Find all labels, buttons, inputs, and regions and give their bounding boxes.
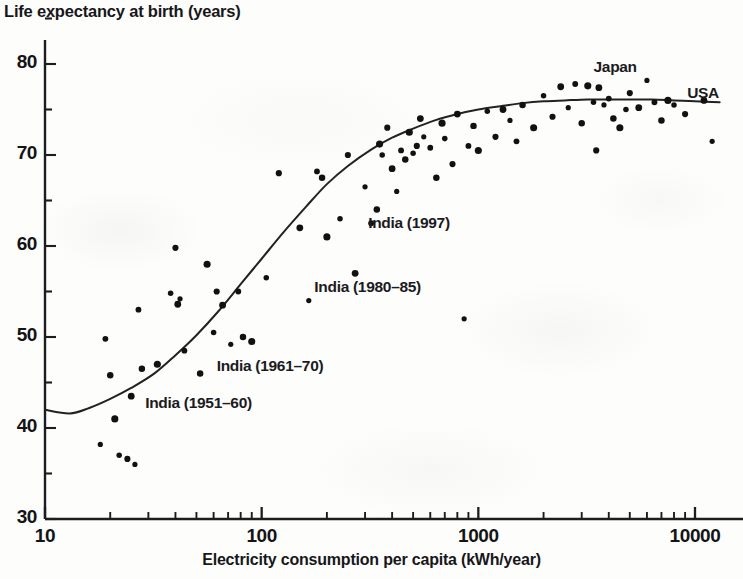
data-point [433, 175, 439, 181]
data-point [492, 134, 498, 140]
annotation-japan: Japan [593, 58, 636, 76]
data-point [389, 165, 396, 172]
data-point [710, 139, 715, 144]
data-point [204, 261, 211, 268]
data-point [319, 175, 325, 181]
y-tick-label: 80 [0, 51, 37, 73]
y-tick-label: 50 [0, 324, 37, 346]
data-point [214, 288, 220, 294]
data-point [98, 442, 103, 447]
data-point [658, 117, 664, 123]
data-point [177, 296, 182, 301]
data-point [384, 125, 390, 131]
data-point [132, 462, 137, 467]
annotation-india-1980-85: India (1980–85) [314, 278, 421, 296]
data-point [557, 83, 564, 90]
annotation-india-1961-70: India (1961–70) [217, 357, 324, 375]
data-point [337, 216, 343, 222]
data-point [379, 152, 385, 158]
data-point [345, 152, 351, 158]
data-point [402, 156, 408, 162]
data-point [111, 415, 118, 422]
data-point [102, 336, 108, 342]
data-point [219, 302, 226, 309]
data-point [606, 96, 612, 102]
data-point [139, 366, 145, 372]
x-axis-title: Electricity consumption per capita (kWh/… [0, 551, 743, 569]
data-point [168, 291, 174, 297]
data-point [466, 143, 472, 149]
y-tick-label: 60 [0, 233, 37, 255]
data-point [519, 102, 525, 108]
data-point [593, 147, 599, 153]
data-point [591, 99, 597, 105]
data-point [616, 124, 623, 131]
x-tick-label: 10000 [635, 525, 743, 547]
data-point [572, 81, 578, 87]
data-point [438, 120, 445, 127]
data-point [248, 338, 255, 345]
data-point [470, 123, 476, 129]
data-point [671, 102, 677, 108]
data-point [454, 111, 461, 118]
data-point [414, 143, 420, 149]
data-point [296, 224, 303, 231]
data-point [635, 104, 642, 111]
data-point [174, 301, 181, 308]
data-point [500, 106, 507, 113]
data-point [449, 161, 455, 167]
data-point [623, 107, 629, 113]
data-point [595, 84, 602, 91]
axes-group [45, 19, 743, 520]
data-point [406, 129, 413, 136]
chart-figure: Life expectancy at birth (years) 3040506… [0, 0, 743, 579]
data-point [682, 111, 688, 117]
data-point [362, 184, 367, 189]
data-point [181, 348, 187, 354]
y-tick-label: 70 [0, 142, 37, 164]
x-tick-label: 1000 [418, 525, 538, 547]
data-point [507, 118, 512, 123]
data-point [352, 270, 359, 277]
data-point [541, 93, 547, 99]
data-point [376, 141, 383, 148]
data-point [128, 393, 135, 400]
data-point [240, 334, 246, 340]
data-point [394, 189, 399, 194]
data-point [124, 456, 130, 462]
data-point [374, 206, 380, 212]
data-point [410, 150, 416, 156]
data-point [197, 370, 203, 376]
data-point [211, 330, 217, 336]
data-point [235, 289, 241, 295]
data-point [417, 115, 424, 122]
data-point [627, 90, 633, 96]
data-point [514, 138, 520, 144]
data-point [566, 105, 571, 110]
x-tick-label: 100 [202, 525, 322, 547]
y-tick-label: 40 [0, 415, 37, 437]
data-point [644, 78, 649, 83]
data-point [601, 102, 606, 107]
data-point [530, 124, 537, 131]
data-point [652, 99, 658, 105]
data-point [398, 148, 404, 154]
data-point [584, 82, 591, 89]
data-point [421, 134, 426, 139]
data-point [442, 136, 448, 142]
data-point [664, 97, 671, 104]
data-point [107, 372, 113, 378]
x-tick-label: 10 [0, 525, 105, 547]
annotation-usa: USA [687, 84, 719, 102]
data-point [475, 147, 482, 154]
data-point [314, 168, 320, 174]
data-point [154, 361, 161, 368]
data-point [549, 114, 555, 120]
data-point [485, 109, 491, 115]
data-point [306, 298, 311, 303]
data-point [264, 275, 270, 281]
data-point [462, 316, 467, 321]
annotation-india-1997: India (1997) [368, 214, 450, 232]
data-point [116, 453, 122, 459]
annotation-india-1951-60: India (1951–60) [145, 394, 252, 412]
